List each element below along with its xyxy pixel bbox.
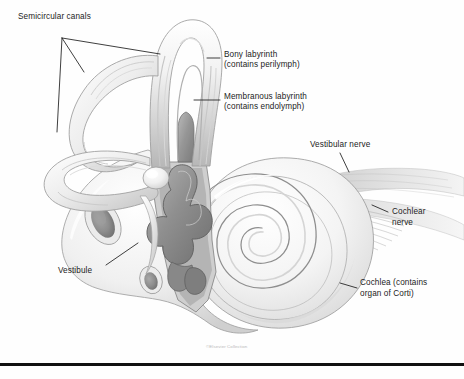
label-membranous-labyrinth-line2: (contains endolymph) (224, 102, 304, 112)
label-cochlear-nerve-line1: Cochlear (392, 207, 426, 217)
label-cochlea-line1: Cochlea (contains (360, 278, 427, 288)
label-vestibule: Vestibule (58, 266, 92, 276)
cochlea-spiral (186, 158, 374, 328)
label-bony-labyrinth-line2: (contains perilymph) (224, 60, 300, 70)
label-cochlea-line2: organ of Corti) (360, 289, 414, 299)
inner-ear-diagram: Semicircular canals Bony labyrinth (cont… (0, 0, 464, 379)
label-membranous-labyrinth-line1: Membranous labyrinth (224, 92, 307, 102)
label-bony-labyrinth-line1: Bony labyrinth (224, 50, 277, 60)
label-cochlear-nerve-line2: nerve (392, 218, 413, 228)
label-semicircular-canals: Semicircular canals (18, 12, 91, 22)
bottom-divider (0, 363, 464, 366)
label-vestibular-nerve: Vestibular nerve (310, 140, 370, 150)
credit-text: ©Elsevier Collection (206, 344, 247, 349)
